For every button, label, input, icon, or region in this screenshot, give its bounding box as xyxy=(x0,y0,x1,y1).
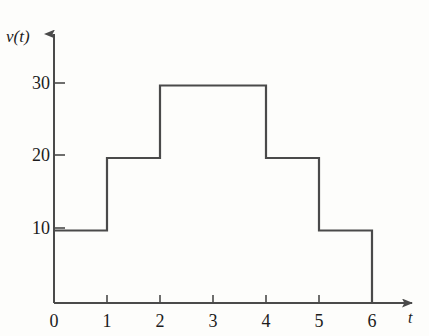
y-axis-ticks xyxy=(54,83,65,228)
x-tick-label-6: 6 xyxy=(361,312,383,330)
y-axis-title: v(t) xyxy=(6,28,30,45)
x-tick-label-1: 1 xyxy=(96,312,118,330)
plot-canvas xyxy=(0,0,429,336)
y-tick-label-20: 20 xyxy=(6,146,50,164)
x-axis-ticks xyxy=(107,295,319,303)
y-tick-label-10: 10 xyxy=(6,219,50,237)
step-function-curve xyxy=(54,86,372,304)
x-tick-label-5: 5 xyxy=(308,312,330,330)
x-tick-label-2: 2 xyxy=(149,312,171,330)
step-function-figure: v(t) t 10 20 30 0 1 2 3 4 5 6 xyxy=(0,0,429,336)
y-tick-label-30: 30 xyxy=(6,74,50,92)
x-axis-title: t xyxy=(408,310,412,326)
x-tick-label-3: 3 xyxy=(202,312,224,330)
x-tick-label-0: 0 xyxy=(43,312,65,330)
x-tick-label-4: 4 xyxy=(255,312,277,330)
